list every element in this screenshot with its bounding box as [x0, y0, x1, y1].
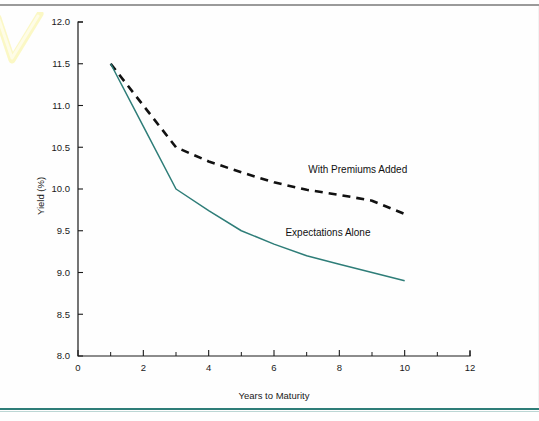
y-tick-label: 11.0 [52, 100, 70, 111]
y-tick-label: 9.0 [57, 267, 70, 278]
chart-series-labels: With Premiums AddedExpectations Alone [285, 164, 407, 238]
y-tick-label: 8.5 [57, 309, 70, 320]
chart-axes [78, 22, 470, 356]
x-axis-title: Years to Maturity [239, 390, 310, 401]
y-tick-label: 8.0 [57, 350, 70, 361]
y-axis-title: Yield (%) [35, 177, 46, 215]
y-axis-ticks [78, 22, 83, 356]
page-bottom-rule-shadow [0, 411, 539, 412]
y-tick-label: 10.5 [52, 142, 71, 153]
x-tick-label: 8 [337, 362, 342, 373]
page-bottom-rule [0, 408, 539, 410]
y-tick-label: 11.5 [52, 58, 70, 69]
x-tick-label: 12 [465, 362, 476, 373]
y-tick-label: 12.0 [52, 16, 71, 27]
x-tick-label: 6 [271, 362, 276, 373]
scanned-page: 8.08.59.09.510.010.511.011.512.0 0246810… [0, 0, 539, 421]
x-tick-label: 4 [206, 362, 211, 373]
y-tick-label: 10.0 [52, 183, 71, 194]
y-axis-tick-labels: 8.08.59.09.510.010.511.011.512.0 [52, 16, 71, 361]
x-axis-tick-labels: 024681012 [75, 362, 475, 373]
x-axis-ticks [78, 350, 470, 356]
chart-canvas: 8.08.59.09.510.010.511.011.512.0 0246810… [0, 0, 539, 421]
yield-curve-chart: 8.08.59.09.510.010.511.011.512.0 0246810… [0, 0, 539, 421]
y-tick-label: 9.5 [57, 225, 70, 236]
x-tick-label: 10 [399, 362, 410, 373]
series-line-0 [111, 64, 405, 214]
x-tick-label: 2 [141, 362, 146, 373]
series-label-1: Expectations Alone [285, 227, 370, 238]
series-label-0: With Premiums Added [308, 164, 407, 175]
x-tick-label: 0 [75, 362, 80, 373]
